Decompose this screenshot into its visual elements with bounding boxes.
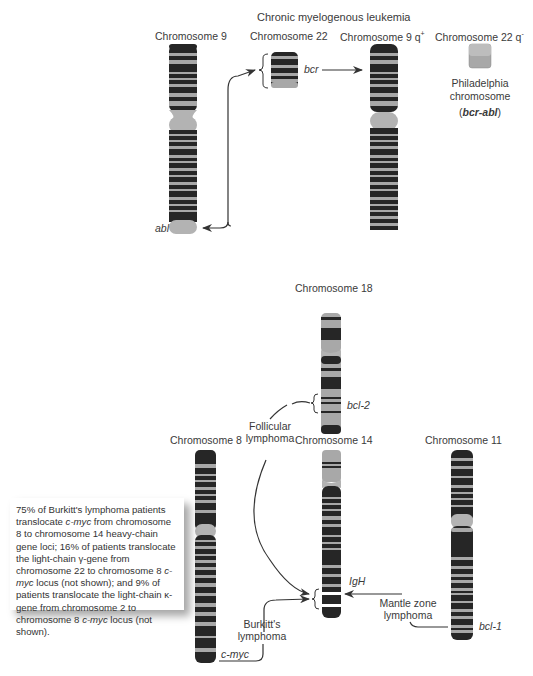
chromosome-8-label: Chromosome 8	[170, 434, 242, 446]
abl-gene-label: abl	[155, 222, 169, 234]
igh-gene-label: IgH	[349, 575, 365, 587]
plus-superscript: +	[421, 30, 425, 37]
chromosome-14-label: Chromosome 14	[295, 434, 373, 446]
chromosome-9q-plus-label: Chromosome 9 q+	[340, 30, 425, 43]
bcl2-gene-label: bcl-2	[347, 399, 370, 411]
burkitt-lymphoma-line1: Burkitt's	[232, 618, 292, 630]
chromosome-9	[169, 44, 197, 234]
chromosome-18-label: Chromosome 18	[295, 282, 373, 294]
chromosome-11	[451, 450, 473, 640]
cmyc-gene-label: c-myc	[221, 648, 249, 660]
note-cmyc-1: c-myc	[66, 516, 92, 527]
mantle-zone-lymphoma-line1: Mantle zone	[370, 597, 446, 609]
chromosome-18	[311, 313, 341, 434]
chromosome-14	[312, 450, 341, 618]
philadelphia-label-line2: chromosome	[448, 90, 512, 102]
chromosome-9-label: Chromosome 9	[155, 30, 227, 42]
minus-superscript: -	[521, 30, 523, 37]
bcr-abl-fusion-text: bcr-abl	[462, 106, 497, 118]
note-cmyc-3: c-myc	[82, 614, 108, 625]
chromosome-22q-minus-label: Chromosome 22 q-	[435, 30, 524, 43]
follicular-lymphoma-line1: Follicular	[240, 420, 300, 432]
diagram-title: Chronic myelogenous leukemia	[257, 11, 410, 23]
bcl1-gene-label: bcl-1	[479, 620, 502, 632]
paren-close: )	[498, 106, 502, 118]
burkitt-translocation-note: 75% of Burkitt's lymphoma patients trans…	[10, 498, 184, 610]
follicular-lymphoma-line2: lymphoma	[240, 432, 300, 444]
burkitt-lymphoma-line2: lymphoma	[232, 630, 292, 642]
philadelphia-chromosome	[469, 44, 491, 68]
bcl1-leader-line	[410, 622, 448, 627]
mantle-zone-lymphoma-line2: lymphoma	[370, 609, 446, 621]
philadelphia-label-line1: Philadelphia	[448, 77, 512, 89]
follicular-leader-line	[270, 405, 287, 419]
chromosome-22q-text: Chromosome 22 q	[435, 31, 521, 43]
chromosome-11-label: Chromosome 11	[425, 434, 502, 446]
bcr-gene-label: bcr	[304, 63, 319, 75]
follicular-to-igh-arrow	[254, 460, 309, 594]
chromosome-22-label: Chromosome 22	[250, 30, 328, 42]
chromosome-22	[259, 52, 298, 88]
bcl2-leader-line	[292, 402, 310, 404]
bcr-abl-label: (bcr-abl)	[448, 106, 512, 118]
chromosome-9q-text: Chromosome 9 q	[340, 31, 421, 43]
abl-arrow-head	[203, 222, 228, 228]
abl-translocation-arrow	[228, 70, 255, 226]
chromosome-9q-plus	[370, 44, 398, 230]
chromosome-8	[195, 450, 216, 663]
